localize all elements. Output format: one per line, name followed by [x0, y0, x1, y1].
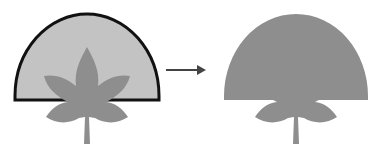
diagram-canvas: semicircle with overlapping leaf merged …	[0, 0, 383, 156]
arrow-icon	[166, 65, 206, 75]
after-figure	[224, 14, 368, 144]
before-figure	[15, 14, 159, 144]
